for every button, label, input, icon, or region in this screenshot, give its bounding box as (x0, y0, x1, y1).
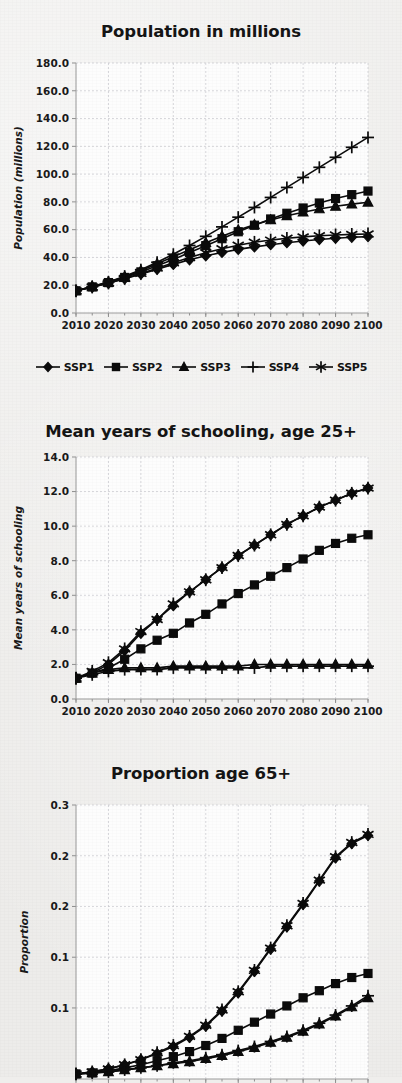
x-tick-label: 2030 (126, 705, 155, 717)
square-marker-icon (169, 629, 177, 637)
legend-item-ssp1[interactable]: SSP1 (35, 360, 94, 374)
square-marker-icon (299, 994, 307, 1002)
square-marker-icon (234, 590, 242, 598)
square-marker-icon (202, 610, 210, 618)
y-tick-label: 80.0 (43, 196, 69, 208)
y-tick-label: 0.1 (50, 951, 69, 963)
square-marker-icon (250, 581, 258, 589)
square-marker-icon (202, 1042, 210, 1050)
square-marker-icon (137, 645, 145, 653)
y-tick-label: 160.0 (36, 85, 69, 97)
square-marker-icon (283, 1002, 291, 1010)
plus-marker-icon (240, 360, 266, 374)
y-tick-label: 180.0 (36, 57, 69, 69)
square-marker-icon (332, 980, 340, 988)
plot-area-proportion65: 0.10.10.20.20.3Proportion (0, 783, 402, 1083)
population-line-chart: 0.020.040.060.080.0100.0120.0140.0160.01… (0, 41, 402, 341)
square-marker-icon (186, 619, 194, 627)
triangle-marker-icon (171, 360, 197, 374)
x-tick-label: 2010 (61, 319, 90, 331)
legend-item-ssp2[interactable]: SSP2 (103, 360, 162, 374)
legend-label: SSP3 (200, 361, 230, 374)
y-tick-label: 8.0 (50, 555, 69, 567)
y-tick-label: 0.2 (50, 850, 69, 862)
legend-item-ssp4[interactable]: SSP4 (240, 360, 299, 374)
square-marker-icon (315, 987, 323, 995)
y-tick-label: 100.0 (36, 168, 69, 180)
x-tick-label: 2100 (353, 705, 382, 717)
y-axis-title: Population (millions) (12, 126, 24, 249)
y-tick-label: 0.0 (50, 307, 69, 319)
square-marker-icon (234, 1026, 242, 1034)
square-marker-icon (299, 555, 307, 563)
x-tick-label: 2080 (288, 705, 317, 717)
x-tick-label: 2040 (159, 705, 188, 717)
x-tick-label: 2020 (94, 319, 123, 331)
schooling-line-chart: 0.02.04.06.08.010.012.014.02010202020302… (0, 441, 402, 723)
plus-marker-icon (247, 362, 258, 373)
chart-panel-schooling: Mean years of schooling, age 25+ 0.02.04… (0, 390, 402, 730)
y-tick-label: 12.0 (43, 485, 69, 497)
square-marker-icon (348, 534, 356, 542)
y-tick-label: 6.0 (50, 589, 69, 601)
x-tick-label: 2020 (94, 705, 123, 717)
legend-item-ssp3[interactable]: SSP3 (171, 360, 230, 374)
chart-title-schooling: Mean years of schooling, age 25+ (0, 390, 402, 441)
y-axis-title: Mean years of schooling (12, 506, 24, 650)
square-marker-icon (153, 636, 161, 644)
x-tick-label: 2070 (256, 705, 285, 717)
square-marker-icon (332, 539, 340, 547)
square-marker-icon (218, 600, 226, 608)
square-marker-icon (364, 969, 372, 977)
x-tick-label: 2060 (224, 705, 253, 717)
legend-label: SSP5 (337, 361, 367, 374)
y-tick-label: 0.0 (50, 693, 69, 705)
square-marker-icon (112, 363, 119, 370)
y-tick-label: 0.3 (50, 799, 69, 811)
square-marker-icon (348, 191, 356, 199)
x-tick-label: 2090 (321, 319, 350, 331)
square-marker-icon (218, 1034, 226, 1042)
y-tick-label: 10.0 (43, 520, 69, 532)
chart-panel-population: Population in millions 0.020.040.060.080… (0, 0, 402, 390)
x-tick-label: 2010 (61, 705, 90, 717)
square-marker-icon (283, 564, 291, 572)
y-tick-label: 140.0 (36, 112, 69, 124)
y-tick-label: 0.1 (50, 1002, 69, 1014)
chart-panel-proportion65: Proportion age 65+ 0.10.10.20.20.3Propor… (0, 730, 402, 1077)
diamond-marker-icon (44, 363, 52, 372)
x-tick-label: 2050 (191, 319, 220, 331)
x-tick-label: 2080 (288, 319, 317, 331)
x-tick-label: 2050 (191, 705, 220, 717)
y-tick-label: 20.0 (43, 279, 69, 291)
square-marker-icon (267, 572, 275, 580)
diamond-marker-icon (35, 360, 61, 374)
y-tick-label: 2.0 (50, 658, 69, 670)
x-tick-label: 2070 (256, 319, 285, 331)
square-marker-icon (186, 1048, 194, 1056)
legend-label: SSP4 (269, 361, 299, 374)
square-marker-icon (315, 546, 323, 554)
x-tick-label: 2060 (224, 319, 253, 331)
y-tick-label: 14.0 (43, 451, 69, 463)
y-tick-label: 40.0 (43, 251, 69, 263)
plot-area-population: 0.020.040.060.080.0100.0120.0140.0160.01… (0, 41, 402, 341)
proportion65-line-chart: 0.10.10.20.20.3Proportion (0, 783, 402, 1083)
chart-title-proportion65: Proportion age 65+ (0, 730, 402, 783)
x-tick-label: 2090 (321, 705, 350, 717)
legend-label: SSP1 (64, 361, 94, 374)
legend-item-ssp5[interactable]: SSP5 (308, 360, 367, 374)
square-marker-icon (103, 360, 129, 374)
chart-legend: SSP1SSP2SSP3SSP4SSP5 (0, 360, 402, 374)
legend-label: SSP2 (132, 361, 162, 374)
x-tick-label: 2100 (353, 319, 382, 331)
x-tick-label: 2040 (159, 319, 188, 331)
square-marker-icon (250, 1018, 258, 1026)
chart-title-population: Population in millions (0, 0, 402, 41)
square-marker-icon (348, 974, 356, 982)
x-tick-label: 2030 (126, 319, 155, 331)
plot-area-schooling: 0.02.04.06.08.010.012.014.02010202020302… (0, 441, 402, 723)
square-marker-icon (267, 1010, 275, 1018)
asterisk-marker-icon (308, 360, 334, 374)
